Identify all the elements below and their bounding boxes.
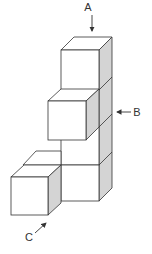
label-c: C — [25, 231, 33, 243]
label-a: A — [84, 1, 92, 13]
cube-bottom-left-back — [23, 151, 61, 165]
cube-bottom-right — [61, 165, 99, 201]
label-c-group: C — [25, 223, 46, 243]
cube-diagram: A B C — [0, 0, 152, 254]
label-a-group: A — [84, 1, 92, 31]
cube-bottom-left — [11, 165, 61, 215]
label-b: B — [133, 106, 140, 118]
arrow-c-icon — [35, 223, 46, 233]
cube-middle-front — [48, 89, 99, 140]
right-column-side — [99, 37, 112, 201]
label-b-group: B — [117, 106, 141, 118]
